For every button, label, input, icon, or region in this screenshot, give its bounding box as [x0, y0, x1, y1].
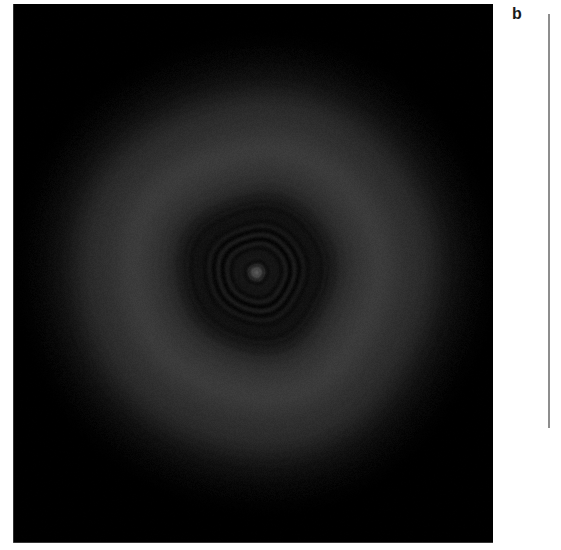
panel-letter-label: b [512, 4, 522, 24]
figure-root: b [0, 0, 561, 550]
vertical-rule-line [548, 14, 550, 428]
diffraction-pattern-canvas [13, 4, 493, 543]
diffraction-image-panel [13, 4, 493, 543]
